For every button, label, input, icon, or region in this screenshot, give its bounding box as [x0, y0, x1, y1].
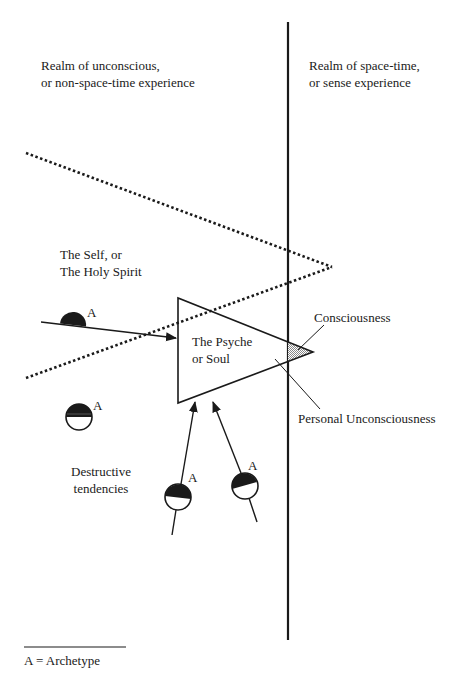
left-region-line2: or non-space-time experience [41, 74, 195, 91]
archetype-3-tail-line [172, 510, 176, 535]
archetype-2-circle-icon [66, 404, 92, 430]
psyche-line2: or Soul [192, 350, 252, 367]
archetype-2-marker: A [93, 399, 102, 412]
left-region-line1: Realm of unconscious, [41, 57, 195, 74]
legend-text: A = Archetype [24, 652, 100, 669]
archetype-4-circle-icon [232, 473, 258, 499]
destructive-line2: tendencies [71, 480, 131, 497]
right-region-label: Realm of space-time, or sense experience [309, 57, 420, 91]
personal-unconscious-leader-line [275, 359, 320, 409]
archetype-4-tail-line [249, 498, 257, 522]
psyche-line1: The Psyche [192, 333, 252, 350]
archetype-4-marker: A [248, 459, 257, 472]
consciousness-leader-line [298, 325, 324, 350]
right-region-line2: or sense experience [309, 74, 420, 91]
psyche-label: The Psyche or Soul [192, 333, 252, 367]
archetype-1-marker: A [87, 306, 96, 319]
consciousness-shaded-region [288, 343, 313, 361]
archetype-3-marker: A [188, 471, 197, 484]
archetype-1-arrow [41, 322, 176, 338]
destructive-label: Destructive tendencies [71, 463, 131, 497]
consciousness-label: Consciousness [314, 309, 391, 326]
left-region-label: Realm of unconscious, or non-space-time … [41, 57, 195, 91]
self-line2: The Holy Spirit [60, 263, 142, 280]
personal-unconscious-label: Personal Unconsciousness [298, 410, 436, 427]
destructive-line1: Destructive [71, 463, 131, 480]
right-region-line1: Realm of space-time, [309, 57, 420, 74]
archetype-4-arrow [213, 402, 241, 473]
self-label: The Self, or The Holy Spirit [60, 246, 142, 280]
self-line1: The Self, or [60, 246, 142, 263]
archetype-3-circle-icon [165, 484, 191, 510]
